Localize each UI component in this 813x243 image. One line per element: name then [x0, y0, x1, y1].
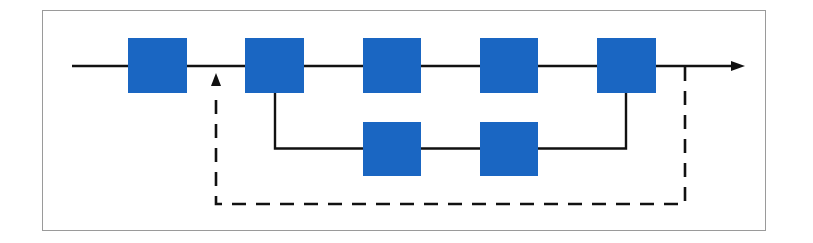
block-2 [245, 38, 304, 93]
block-1 [128, 38, 187, 93]
output-arrow-icon [731, 61, 745, 71]
block-7 [480, 122, 538, 176]
block-5 [597, 38, 656, 93]
block-3 [363, 38, 421, 93]
block-6 [363, 122, 421, 176]
branch-signal-line [275, 66, 626, 149]
block-4 [480, 38, 538, 93]
block-diagram [0, 0, 813, 243]
feedback-arrow-icon [211, 73, 221, 86]
